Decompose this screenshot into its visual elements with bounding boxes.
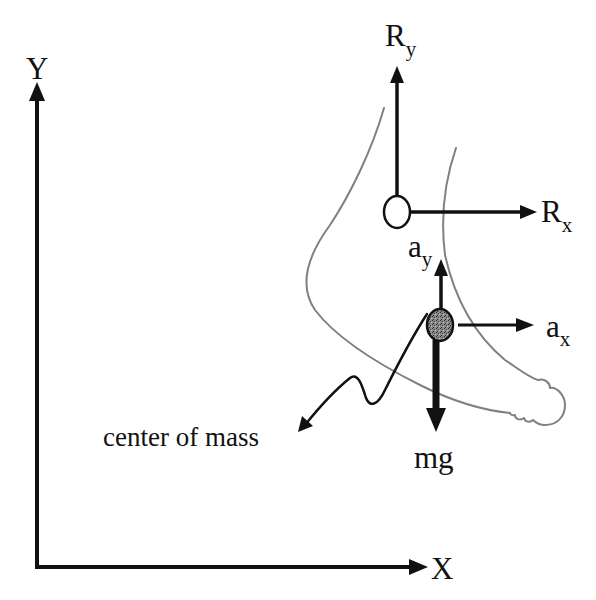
ax-label: ax	[546, 309, 571, 351]
rx-label: Rx	[541, 194, 573, 237]
reaction-forces: Ry Rx	[384, 18, 573, 237]
ry-arrowhead-icon	[390, 66, 404, 83]
shin-outline	[443, 148, 538, 380]
y-axis-label: Y	[26, 51, 48, 86]
ry-label: Ry	[385, 18, 417, 61]
callout-squiggle	[305, 314, 427, 425]
center-of-mass-callout: center of mass	[103, 314, 427, 452]
center-of-mass-vectors: ay ax mg	[408, 229, 571, 475]
mg-label: mg	[414, 440, 454, 475]
ax-arrowhead-icon	[516, 318, 534, 332]
center-of-mass-marker	[427, 309, 453, 341]
ankle-joint	[384, 196, 410, 228]
center-of-mass-label: center of mass	[103, 422, 259, 452]
coordinate-axes: Y X	[26, 51, 453, 586]
free-body-diagram: Y X Ry Rx ay ax mg cen	[0, 0, 596, 600]
x-axis-label: X	[431, 551, 453, 586]
x-axis-arrowhead-icon	[409, 559, 428, 575]
ay-label: ay	[408, 229, 433, 271]
rx-arrowhead-icon	[520, 205, 537, 219]
mg-arrowhead-icon	[426, 408, 446, 432]
toes-outline	[510, 380, 565, 425]
